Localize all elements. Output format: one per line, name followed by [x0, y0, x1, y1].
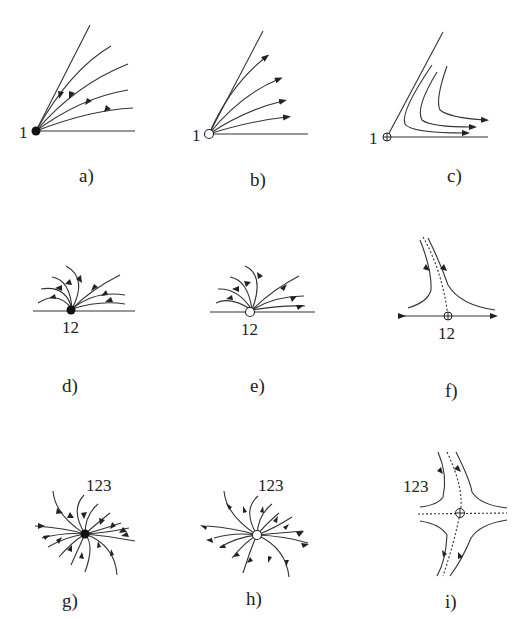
- panel-caption: g): [62, 590, 78, 612]
- panel-h: 123 h): [200, 476, 309, 610]
- phase-portraits-figure: 1 a) 1 b) 1 c): [0, 0, 529, 619]
- panel-a: 1 a): [19, 25, 135, 187]
- panel-caption: b): [250, 169, 266, 191]
- crossed-point-icon: [456, 509, 465, 518]
- point-label: 123: [258, 476, 284, 495]
- point-label: 12: [438, 324, 455, 343]
- arrow-icon: [226, 272, 304, 310]
- arrow-icon: [423, 264, 447, 271]
- open-point-icon: [253, 531, 262, 540]
- filled-point-icon: [67, 306, 76, 315]
- panel-f: 12 f): [402, 237, 495, 402]
- panel-g: 123 g): [35, 476, 135, 612]
- panel-caption: a): [79, 165, 94, 187]
- point-label: 1: [19, 123, 28, 142]
- point-label: 123: [86, 476, 112, 495]
- panel-caption: c): [447, 165, 462, 187]
- panel-caption: d): [62, 375, 78, 397]
- panel-caption: h): [246, 588, 262, 610]
- filled-point-icon: [81, 530, 90, 539]
- panel-b: 1 b): [192, 31, 308, 191]
- panel-c: 1 c): [369, 32, 488, 187]
- panel-i: 123 i): [403, 452, 507, 613]
- panel-caption: f): [445, 380, 458, 402]
- panel-d: 12 d): [33, 266, 135, 397]
- point-label: 1: [369, 129, 378, 148]
- point-label: 12: [62, 318, 79, 337]
- point-label: 1: [192, 126, 201, 145]
- crossed-point-icon: [383, 133, 391, 141]
- filled-point-icon: [32, 127, 41, 136]
- open-point-icon: [205, 130, 214, 139]
- crossed-point-icon: [444, 312, 452, 320]
- panel-caption: i): [445, 591, 457, 613]
- point-label: 123: [403, 477, 429, 496]
- panel-caption: e): [250, 375, 265, 397]
- panel-e: 12 e): [210, 266, 315, 397]
- point-label: 12: [241, 320, 258, 339]
- open-point-icon: [246, 308, 255, 317]
